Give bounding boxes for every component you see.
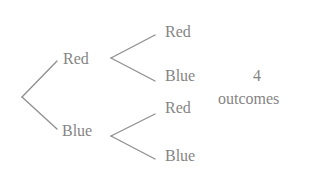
branch-root-to-red: [22, 61, 57, 97]
outcome-caption: outcomes: [218, 91, 279, 107]
branch-blue-to-red: [111, 114, 155, 136]
branch-blue-to-blue: [111, 136, 155, 159]
leaf-blue-blue: Blue: [165, 148, 195, 164]
branch-root-to-blue: [22, 97, 57, 129]
node-level1-blue: Blue: [62, 123, 92, 139]
tree-diagram: Red Blue Red Blue Red Blue 4 outcomes: [0, 0, 319, 187]
outcome-count: 4: [253, 68, 261, 84]
branch-red-to-red: [111, 35, 155, 58]
leaf-red-blue: Blue: [165, 68, 195, 84]
leaf-blue-red: Red: [165, 100, 191, 116]
node-level1-red: Red: [63, 51, 89, 67]
branch-red-to-blue: [111, 58, 155, 81]
leaf-red-red: Red: [165, 24, 191, 40]
